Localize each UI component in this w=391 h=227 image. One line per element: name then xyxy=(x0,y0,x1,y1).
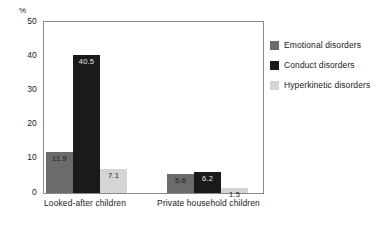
bar-value-label: 6.2 xyxy=(194,174,221,183)
bar-hyperkinetic-disorders-group-0: 7.1 xyxy=(100,169,127,193)
bars-layer: 11.940.57.1 5.66.21.5 xyxy=(44,22,263,193)
bar-emotional-disorders-group-0: 11.9 xyxy=(46,152,73,193)
bar-value-label: 40.5 xyxy=(73,57,100,66)
y-axis-unit-label: % xyxy=(19,6,26,16)
bar-value-label: 7.1 xyxy=(100,171,127,180)
x-axis-label-looked-after-children: Looked-after children xyxy=(22,198,148,209)
x-axis-category-labels: Looked-after children Private household … xyxy=(44,198,263,212)
legend-item-emotional-disorders: Emotional disorders xyxy=(270,39,391,59)
bar-conduct-disorders-group-1: 6.2 xyxy=(194,172,221,193)
bar-conduct-disorders-group-0: 40.5 xyxy=(73,55,100,194)
legend-item-conduct-disorders: Conduct disorders xyxy=(270,59,391,79)
legend-swatch-icon xyxy=(270,81,279,90)
y-axis-tick-0: 0 xyxy=(32,188,37,197)
bar-emotional-disorders-group-1: 5.6 xyxy=(167,174,194,193)
y-axis-tick-10: 10 xyxy=(27,153,37,162)
y-axis-tick-30: 30 xyxy=(27,85,37,94)
bar-group-looked-after-children: 11.940.57.1 xyxy=(46,22,127,193)
y-axis-tick-20: 20 xyxy=(27,119,37,128)
bar-chart-figure: % 50403020100 11.940.57.1 5.66.21.5 Look… xyxy=(0,0,391,227)
bar-hyperkinetic-disorders-group-1: 1.5 xyxy=(221,188,248,193)
chart-legend: Emotional disordersConduct disordersHype… xyxy=(270,39,391,99)
y-axis-tick-40: 40 xyxy=(27,51,37,60)
legend-item-label: Hyperkinetic disorders xyxy=(284,79,370,91)
y-axis-tick-labels: 50403020100 xyxy=(0,21,43,194)
legend-item-label: Emotional disorders xyxy=(284,39,361,51)
bar-value-label: 5.6 xyxy=(167,176,194,185)
y-axis-tick-50: 50 xyxy=(27,17,37,26)
legend-swatch-icon xyxy=(270,61,279,70)
bar-group-private-household-children: 5.66.21.5 xyxy=(167,22,248,193)
legend-item-label: Conduct disorders xyxy=(284,59,355,71)
legend-item-hyperkinetic-disorders: Hyperkinetic disorders xyxy=(270,79,391,99)
x-axis-label-private-household-children: Private household children xyxy=(136,198,281,209)
bar-value-label: 11.9 xyxy=(46,154,73,163)
legend-swatch-icon xyxy=(270,41,279,50)
